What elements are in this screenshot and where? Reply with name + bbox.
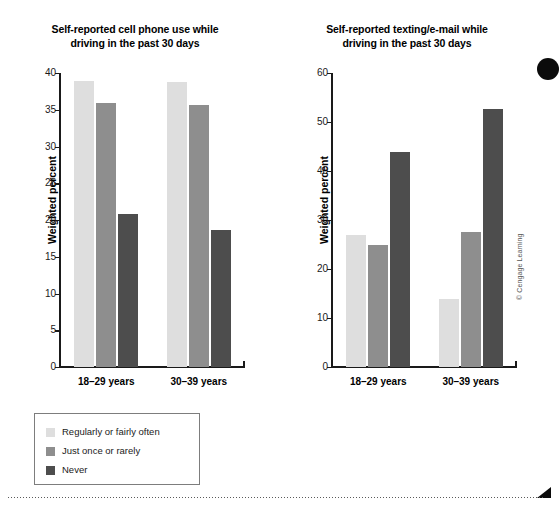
y-axis-tick-label: 35: [45, 103, 56, 116]
legend-item: Just once or rarely: [46, 442, 199, 460]
y-axis-tick-label: 0: [322, 360, 328, 373]
bar-cell-phone-use-g0-s2: [118, 214, 138, 367]
y-axis-tick-label: 10: [317, 311, 328, 324]
x-axis-group-label: 18–29 years: [332, 376, 425, 387]
y-axis-tick-label: 30: [317, 213, 328, 226]
y-axis-tick-label: 10: [45, 287, 56, 300]
bar-texting-email-g0-s0: [346, 235, 366, 367]
legend-swatch-icon: [46, 466, 55, 475]
x-axis-group-label: 18–29 years: [60, 376, 153, 387]
bar-texting-email-g1-s2: [483, 109, 503, 367]
y-axis-tick-label: 0: [50, 360, 56, 373]
y-axis-tick-label: 40: [317, 164, 328, 177]
page-dotted-rule: [8, 497, 545, 498]
bar-texting-email-g1-s0: [439, 299, 459, 367]
chart-panel-cell-phone-use: Self-reported cell phone use while drivi…: [0, 0, 270, 400]
chart-title-line-1: Self-reported cell phone use while: [0, 22, 270, 36]
copyright-credit: © Cengage Learning: [516, 233, 523, 300]
x-axis-group-label: 30–39 years: [153, 376, 246, 387]
bar-cell-phone-use-g1-s2: [211, 230, 231, 367]
bar-texting-email-g1-s1: [461, 232, 481, 367]
legend-item: Regularly or fairly often: [46, 423, 199, 441]
plot-area-texting-email: 0102030405060: [332, 73, 517, 367]
chart-title-line-2: driving in the past 30 days: [0, 36, 270, 50]
y-axis-tick-label: 30: [45, 140, 56, 153]
chart-title-cell-phone-use: Self-reported cell phone use while drivi…: [0, 22, 270, 50]
chart-title-texting-email: Self-reported texting/e-mail while drivi…: [272, 22, 542, 50]
x-axis-right-cap-right: [515, 361, 517, 368]
bar-cell-phone-use-g1-s1: [189, 105, 209, 367]
legend-item-label: Regularly or fairly often: [62, 426, 160, 438]
legend-item: Never: [46, 461, 199, 479]
legend-swatch-icon: [46, 428, 55, 437]
bar-cell-phone-use-g1-s0: [167, 82, 187, 367]
chart-panel-texting-email: Self-reported texting/e-mail while drivi…: [272, 0, 542, 400]
bar-cell-phone-use-g0-s1: [96, 103, 116, 367]
y-axis-tick-label: 25: [45, 176, 56, 189]
y-axis-tick-label: 20: [45, 213, 56, 226]
y-axis-tick-label: 60: [317, 66, 328, 79]
page-edge-blob-icon: [537, 58, 559, 80]
legend-item-label: Never: [62, 464, 87, 476]
bar-texting-email-g0-s2: [390, 152, 410, 367]
y-axis-tick-label: 15: [45, 250, 56, 263]
y-axis-tick-label: 40: [45, 66, 56, 79]
x-axis-right-cap-left: [243, 361, 245, 368]
legend-swatch-icon: [46, 447, 55, 456]
bar-texting-email-g0-s1: [368, 245, 388, 367]
legend-item-label: Just once or rarely: [62, 445, 140, 457]
legend: Regularly or fairly oftenJust once or ra…: [34, 413, 200, 485]
y-axis-tick-label: 20: [317, 262, 328, 275]
chart-title-line-2: driving in the past 30 days: [272, 36, 542, 50]
y-axis-tick-label: 50: [317, 115, 328, 128]
x-axis-group-label: 30–39 years: [425, 376, 518, 387]
chart-title-line-1: Self-reported texting/e-mail while: [272, 22, 542, 36]
y-axis-tick-label: 5: [50, 323, 56, 336]
bar-cell-phone-use-g0-s0: [74, 81, 94, 367]
plot-area-cell-phone-use: 0510152025303540: [60, 73, 245, 367]
y-axis-label-left: Weighted percent: [46, 156, 58, 244]
